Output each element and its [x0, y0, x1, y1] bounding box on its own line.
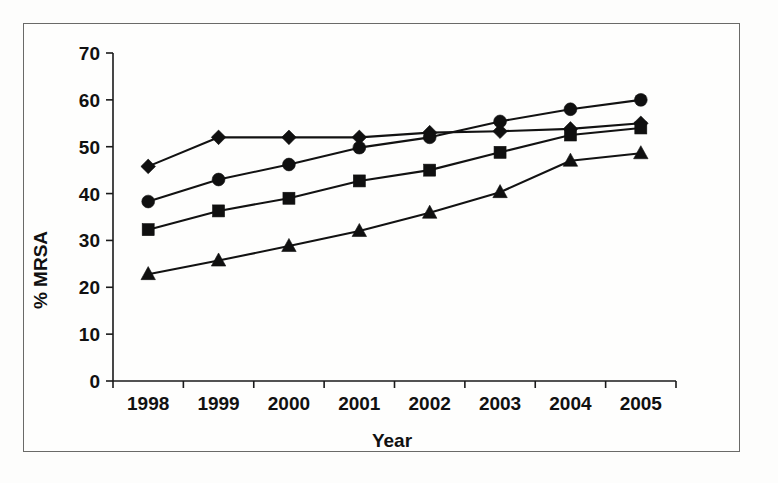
y-tick-label: 40 — [79, 184, 100, 205]
data-point-marker-square — [635, 122, 647, 134]
data-point-marker-diamond — [211, 130, 226, 145]
data-point-marker-diamond — [141, 159, 156, 174]
data-point-marker-square — [142, 224, 154, 236]
y-tick-label: 60 — [79, 90, 100, 111]
x-tick-label-layer: 19981999200020012002200320042005 — [127, 393, 662, 414]
y-axis-title: % MRSA — [30, 231, 51, 309]
data-point-marker-circle — [283, 158, 296, 171]
x-tick-label: 2004 — [549, 393, 592, 414]
data-point-marker-square — [353, 175, 365, 187]
x-axis-title: Year — [372, 430, 413, 451]
figure-root: 010203040506070 199819992000200120022003… — [0, 0, 778, 483]
mrsa-trend-line-chart: 010203040506070 199819992000200120022003… — [0, 0, 778, 483]
data-point-marker-circle — [353, 141, 366, 154]
data-point-marker-square — [213, 205, 225, 217]
data-point-marker-triangle — [634, 146, 648, 159]
data-point-marker-diamond — [282, 130, 297, 145]
data-point-marker-triangle — [493, 185, 507, 198]
y-tick-label-layer: 010203040506070 — [79, 43, 100, 392]
series-circle — [142, 93, 647, 207]
series-layer — [141, 93, 648, 279]
x-tick-label: 2001 — [338, 393, 381, 414]
y-tick-label: 20 — [79, 277, 100, 298]
data-point-marker-circle — [494, 115, 507, 128]
data-point-marker-circle — [212, 173, 225, 186]
data-point-marker-circle — [634, 93, 647, 106]
y-tick-label: 50 — [79, 137, 100, 158]
x-tick-label: 2000 — [268, 393, 310, 414]
axis-layer — [106, 53, 676, 388]
y-tick-label: 10 — [79, 324, 100, 345]
y-tick-label: 0 — [89, 371, 100, 392]
data-point-marker-circle — [142, 195, 155, 208]
data-point-marker-square — [283, 192, 295, 204]
series-polyline — [148, 100, 641, 202]
data-point-marker-circle — [564, 103, 577, 116]
x-tick-label: 2005 — [620, 393, 663, 414]
data-point-marker-square — [564, 129, 576, 141]
x-tick-label: 2002 — [409, 393, 451, 414]
x-tick-label: 1998 — [127, 393, 169, 414]
y-tick-label: 70 — [79, 43, 100, 64]
data-point-marker-square — [424, 164, 436, 176]
x-tick-label: 2003 — [479, 393, 521, 414]
data-point-marker-square — [494, 146, 506, 158]
y-tick-label: 30 — [79, 230, 100, 251]
x-tick-label: 1999 — [197, 393, 239, 414]
data-point-marker-circle — [423, 131, 436, 144]
